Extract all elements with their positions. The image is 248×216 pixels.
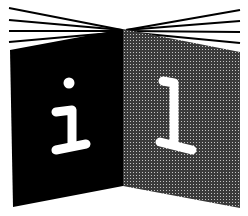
left-page <box>10 29 123 207</box>
open-book-info-icon <box>0 0 248 216</box>
info-book-logo <box>0 0 248 216</box>
right-page <box>123 29 240 208</box>
